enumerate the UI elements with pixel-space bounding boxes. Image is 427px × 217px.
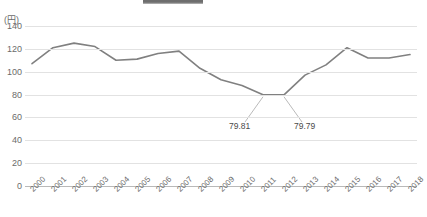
data-label: 79.81: [229, 122, 250, 131]
data-label: 79.79: [294, 122, 315, 131]
y-axis-tick-label: 20: [0, 159, 22, 168]
y-axis-tick-label: 140: [0, 22, 22, 31]
y-axis-tick-label: 100: [0, 68, 22, 77]
series-polyline: [32, 43, 410, 95]
gridline: [25, 117, 417, 118]
y-axis-tick-label: 0: [0, 182, 22, 191]
line-chart: (円) 020406080100120140 79.8179.79 200020…: [0, 0, 427, 217]
x-axis-tick-labels: 2000200120022003200420052006200720082009…: [25, 188, 417, 217]
y-axis-tick-label: 120: [0, 45, 22, 54]
gridline: [25, 163, 417, 164]
y-axis-tick-label: 40: [0, 136, 22, 145]
y-axis-tick-labels: 020406080100120140: [0, 0, 22, 217]
gridline: [25, 72, 417, 73]
title-bar-cropped: [143, 0, 203, 4]
y-axis-tick-label: 60: [0, 113, 22, 122]
gridline: [25, 95, 417, 96]
gridline: [25, 140, 417, 141]
plot-area: [25, 26, 417, 186]
data-line-series: [25, 26, 417, 186]
y-axis-tick-label: 80: [0, 91, 22, 100]
gridline: [25, 26, 417, 27]
gridline: [25, 49, 417, 50]
